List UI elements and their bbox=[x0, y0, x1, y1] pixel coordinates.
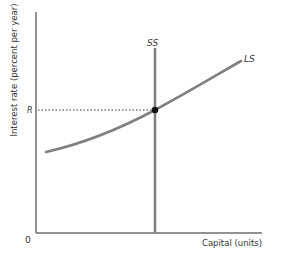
ls-label: LS bbox=[244, 54, 255, 64]
ls-curve bbox=[46, 61, 241, 152]
origin-label: 0 bbox=[25, 235, 31, 245]
y-axis-label: Interest rate (percent per year) bbox=[9, 3, 19, 136]
x-axis-label: Capital (units) bbox=[202, 238, 262, 248]
equilibrium-point bbox=[152, 107, 159, 114]
r-label: R bbox=[27, 106, 33, 115]
ss-label: SS bbox=[147, 38, 158, 48]
chart: SS LS R 0 Capital (units) Interest rate … bbox=[0, 0, 284, 261]
